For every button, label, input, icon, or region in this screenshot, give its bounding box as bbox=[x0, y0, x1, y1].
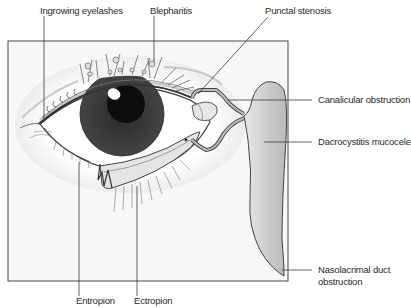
label-dacrocystitis-mucocele: Dacrocystitis mucocele bbox=[318, 136, 411, 147]
caruncle bbox=[192, 102, 217, 121]
label-blepharitis: Blepharitis bbox=[150, 5, 192, 16]
label-punctal-stenosis: Punctal stenosis bbox=[265, 5, 331, 16]
label-nasolacrimal-duct-line2: obstruction bbox=[318, 276, 362, 287]
label-canalicular-obstruction: Canalicular obstruction bbox=[318, 94, 410, 105]
lower-punctum bbox=[185, 139, 188, 142]
label-nasolacrimal-duct-line1: Nasolacrimal duct bbox=[318, 264, 390, 275]
label-entropion: Entropion bbox=[76, 295, 115, 306]
label-ectropion: Ectropion bbox=[134, 295, 172, 306]
label-ingrowing-eyelashes: Ingrowing eyelashes bbox=[40, 5, 123, 16]
